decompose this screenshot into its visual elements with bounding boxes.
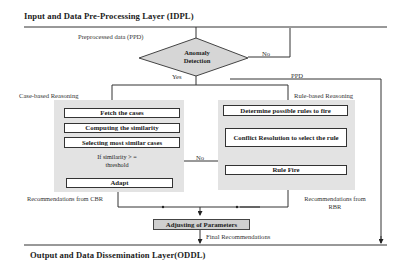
cbr-output-label: Recommendations from CBR (20, 195, 110, 203)
cbr-step-similarity: Computing the similarity (64, 123, 180, 133)
input-layer-title: Input and Data Pre-Processing Layer (IDP… (24, 11, 194, 21)
anomaly-detection-decision: Anomaly Detection (170, 49, 224, 65)
cbr-step-fetch: Fetch the cases (64, 108, 180, 118)
no-threshold-label: No (196, 154, 204, 161)
yes-anomaly-label: Yes (172, 73, 182, 80)
preprocessed-data-label: Preprocessed data (PPD) (78, 33, 144, 40)
adjusting-parameters-box: Adjusting of Parameters (153, 219, 250, 230)
rbr-title: Rule-based Reasoning (294, 92, 353, 99)
rbr-output-label: Recommendations from RBR (300, 195, 370, 211)
rbr-step-determine: Determine possible rules to fire (223, 105, 348, 116)
rbr-step-fire: Rule Fire (225, 165, 347, 175)
output-layer-title: Output and Data Dissemination Layer(ODDL… (30, 250, 206, 260)
rbr-step-conflict: Conflict Resolution to select the rule (225, 128, 347, 147)
final-recommendations-label: Final Recommendations (206, 233, 270, 240)
threshold-decision: If similarity > = threshold (90, 153, 144, 169)
cbr-title: Case-based Reasoning (19, 92, 79, 99)
ppd-label: PPD (291, 72, 303, 79)
cbr-step-select: Selecting most similar cases (64, 137, 180, 148)
cbr-step-adapt: Adapt (66, 178, 173, 188)
no-anomaly-label: No (262, 50, 270, 57)
